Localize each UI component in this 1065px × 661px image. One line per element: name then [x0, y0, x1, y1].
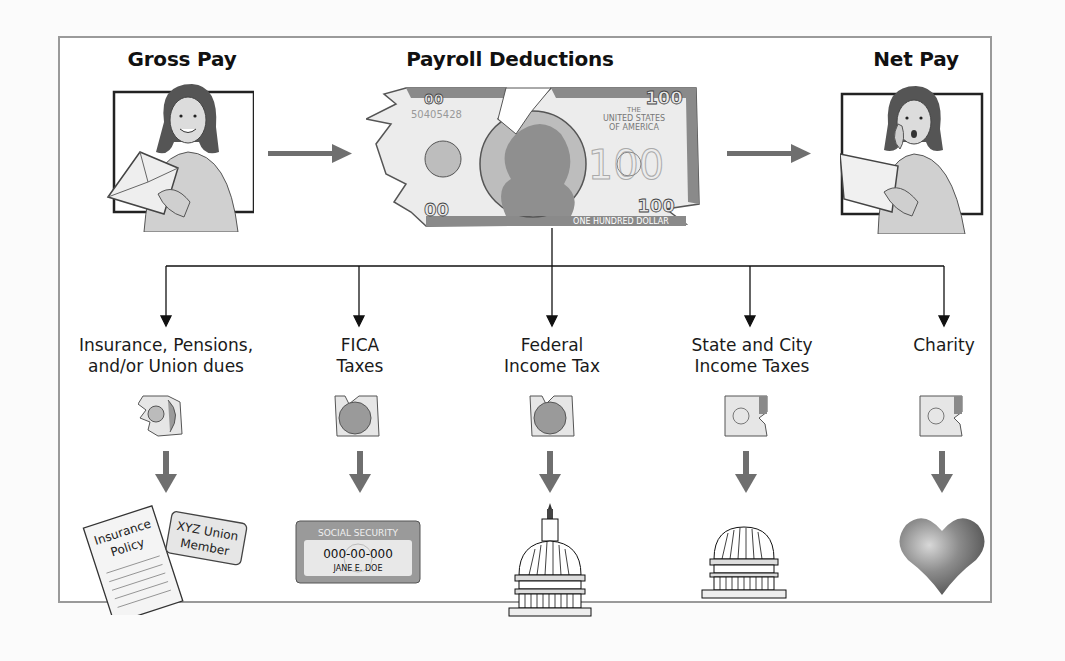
deduction-label-federal: Federal Income Tax — [504, 335, 600, 377]
state-capitol-dome-icon — [700, 525, 788, 600]
mini-bill-icon — [918, 392, 966, 440]
svg-text:SOCIAL SECURITY: SOCIAL SECURITY — [318, 528, 398, 538]
mini-bill-icon — [528, 392, 576, 440]
mini-bill-icon — [333, 392, 381, 440]
heart-icon — [898, 515, 986, 597]
svg-text:JANE E. DOE: JANE E. DOE — [333, 564, 383, 573]
deduction-label-fica: FICA Taxes — [337, 335, 384, 377]
svg-text:000-00-000: 000-00-000 — [323, 547, 393, 561]
social-security-card-icon: SOCIAL SECURITY 000-00-000 JANE E. DOE — [295, 520, 421, 584]
deduction-label-state-city: State and City Income Taxes — [691, 335, 812, 377]
insurance-policy-and-union-card-icon: Insurance Policy XYZ Union Member — [80, 495, 250, 615]
mini-bill-icon — [723, 392, 771, 440]
mini-bill-icon — [138, 392, 186, 440]
deduction-label-insurance: Insurance, Pensions, and/or Union dues — [79, 335, 253, 377]
deduction-label-charity: Charity — [913, 335, 975, 356]
capitol-dome-icon — [505, 503, 595, 618]
